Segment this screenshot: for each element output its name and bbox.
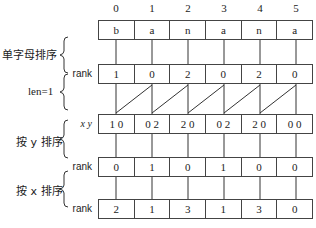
- group-label-sort-by-x: 按 x 排序: [16, 182, 63, 198]
- cell: 0: [242, 158, 278, 176]
- cell: a: [277, 21, 312, 39]
- cell: 2 0: [242, 115, 278, 133]
- cell: 0: [277, 158, 312, 176]
- row-label-rank: rank: [73, 68, 92, 79]
- cell: 2: [99, 200, 135, 218]
- cell: 0: [135, 65, 171, 83]
- rank-row-initial: 1 0 2 0 2 0: [98, 64, 313, 84]
- cell: a: [206, 21, 242, 39]
- cell: 2: [242, 65, 278, 83]
- column-index: 3: [206, 2, 242, 14]
- column-index: 0: [98, 2, 134, 14]
- group-label-single-char-sort: 单字母排序: [2, 46, 57, 62]
- cell: 0: [170, 158, 206, 176]
- column-index: 4: [242, 2, 278, 14]
- xy-pair-row: 1 0 0 2 2 0 0 2 2 0 0 0: [98, 114, 313, 134]
- cell: 2: [170, 65, 206, 83]
- cell: 0: [206, 65, 242, 83]
- row-label-rank: rank: [73, 161, 92, 172]
- group-label-len: len=1: [28, 85, 53, 97]
- rank-row-sorted-y: 0 1 0 1 0 0: [98, 157, 313, 177]
- cell: 0: [277, 200, 312, 218]
- cell: 3: [242, 200, 278, 218]
- cell: 1 0: [99, 115, 135, 133]
- cell: 0 2: [206, 115, 242, 133]
- group-label-sort-by-y: 按 y 排序: [16, 133, 63, 149]
- cell: 1: [99, 65, 135, 83]
- row-label-xy: x y: [81, 118, 92, 129]
- cell: 0 2: [135, 115, 171, 133]
- column-index: 2: [170, 2, 206, 14]
- cell: 3: [170, 200, 206, 218]
- row-label-rank: rank: [73, 203, 92, 214]
- cell: 0: [277, 65, 312, 83]
- cell: 2 0: [170, 115, 206, 133]
- column-index: 1: [134, 2, 170, 14]
- rank-row-sorted-x: 2 1 3 1 3 0: [98, 199, 313, 219]
- cell: 0: [99, 158, 135, 176]
- cell: 1: [135, 158, 171, 176]
- cell: 1: [206, 200, 242, 218]
- column-index: 5: [278, 2, 314, 14]
- cell: a: [135, 21, 171, 39]
- cell: n: [170, 21, 206, 39]
- cell: 1: [206, 158, 242, 176]
- cell: 0 0: [277, 115, 312, 133]
- cell: 1: [135, 200, 171, 218]
- cell: b: [99, 21, 135, 39]
- string-row: b a n a n a: [98, 20, 313, 40]
- cell: n: [242, 21, 278, 39]
